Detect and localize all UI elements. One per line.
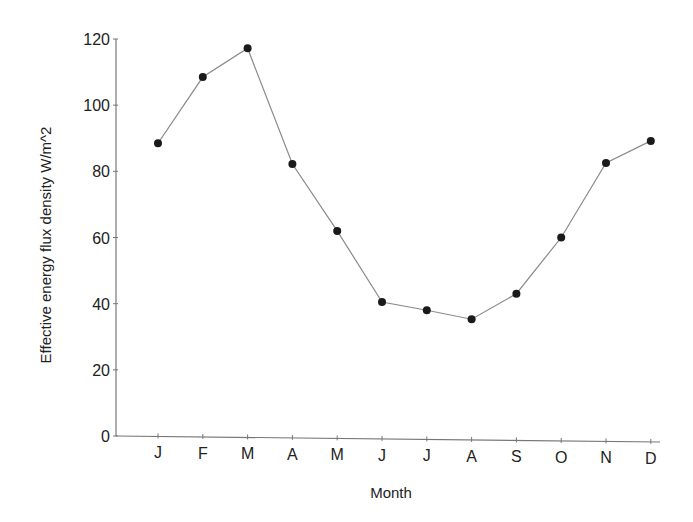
data-point-marker — [244, 44, 252, 52]
x-tick-label: J — [154, 444, 162, 461]
x-tick-label: D — [645, 450, 657, 467]
data-point-marker — [288, 160, 296, 168]
data-point-marker — [199, 73, 207, 81]
x-tick-label: A — [287, 446, 298, 463]
data-point-marker — [512, 290, 520, 298]
x-tick-label: M — [241, 445, 254, 462]
y-tick-label: 40 — [92, 296, 110, 313]
x-axis: JFMAMJJASOND — [116, 433, 660, 466]
data-point-marker — [557, 234, 565, 242]
line-chart: 020406080100120 JFMAMJJASOND Effective e… — [0, 0, 693, 522]
x-tick-label: N — [600, 449, 612, 466]
series-line — [158, 48, 651, 319]
x-tick-label: S — [511, 448, 522, 465]
data-point-marker — [423, 306, 431, 314]
data-point-marker — [602, 159, 610, 167]
data-point-marker — [154, 139, 162, 147]
x-tick-label: J — [423, 447, 431, 464]
x-tick-label: A — [466, 448, 477, 465]
x-tick-label: J — [378, 447, 386, 464]
chart-container: 020406080100120 JFMAMJJASOND Effective e… — [0, 0, 693, 522]
x-tick-label: M — [331, 446, 344, 463]
data-point-marker — [333, 227, 341, 235]
y-tick-label: 0 — [101, 428, 110, 445]
y-axis: 020406080100120 — [83, 31, 118, 445]
data-point-marker — [468, 315, 476, 323]
y-tick-label: 20 — [92, 362, 110, 379]
y-tick-label: 120 — [83, 31, 110, 48]
y-axis-title: Effective energy flux density W/m^2 — [37, 127, 54, 364]
x-axis-title: Month — [370, 484, 412, 501]
data-point-marker — [647, 137, 655, 145]
data-point-marker — [378, 298, 386, 306]
y-tick-label: 80 — [92, 163, 110, 180]
x-tick-label: O — [555, 449, 567, 466]
y-tick-label: 100 — [83, 97, 110, 114]
y-tick-label: 60 — [92, 230, 110, 247]
x-tick-label: F — [198, 445, 208, 462]
series-layer — [154, 44, 655, 323]
